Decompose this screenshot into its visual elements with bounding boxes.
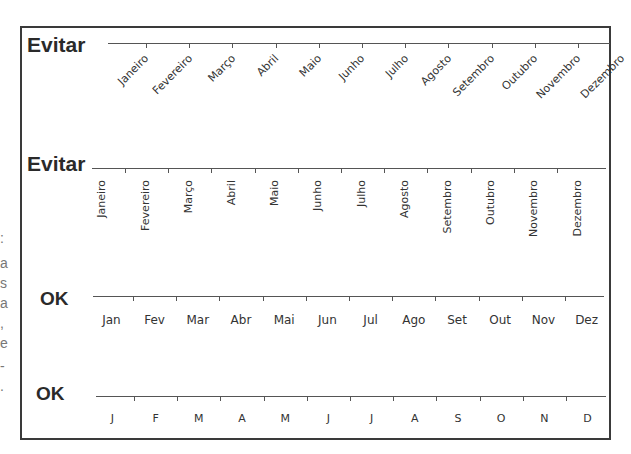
axis-tick: [177, 396, 178, 401]
month-label: J: [327, 412, 330, 425]
axis-tick: [319, 43, 320, 48]
diagram-frame: [20, 26, 611, 440]
month-label: Março: [182, 180, 195, 213]
month-label: Janeiro: [95, 180, 108, 218]
month-label: N: [540, 412, 548, 425]
axis-tick: [264, 396, 265, 401]
axis-tick: [220, 396, 221, 401]
axis-tick: [384, 168, 385, 173]
edge-text-fragment: :: [0, 230, 4, 246]
month-label: Maio: [268, 180, 281, 206]
row-label-avoid-vertical: Evitar: [27, 152, 85, 176]
month-label: Jul: [363, 313, 377, 327]
month-label: Fevereiro: [139, 180, 152, 231]
axis-tick: [232, 43, 233, 48]
edge-text-fragment: a: [0, 255, 8, 271]
axis-tick: [392, 296, 393, 301]
axis-tick: [306, 296, 307, 301]
axis-tick: [480, 396, 481, 401]
axis-tick: [255, 168, 256, 173]
axis-tick: [263, 296, 264, 301]
axis-tick: [362, 43, 363, 48]
axis-tick: [471, 168, 472, 173]
month-label: J: [111, 412, 114, 425]
month-label: Out: [489, 313, 511, 327]
month-label: A: [238, 412, 246, 425]
edge-text-fragment: ,: [0, 315, 4, 331]
month-label: Ago: [402, 313, 425, 327]
axis-tick: [125, 168, 126, 173]
month-label: Fev: [144, 313, 165, 327]
edge-text-fragment: a: [0, 295, 8, 311]
month-label: A: [411, 412, 419, 425]
axis-tick: [492, 43, 493, 48]
month-label: D: [583, 412, 591, 425]
month-label: O: [497, 412, 506, 425]
axis-line: [96, 396, 606, 397]
axis-tick: [393, 396, 394, 401]
axis-tick: [427, 168, 428, 173]
month-label: M: [194, 412, 204, 425]
month-label: Mai: [274, 313, 295, 327]
month-label: J: [370, 412, 373, 425]
axis-tick: [189, 43, 190, 48]
axis-tick: [298, 168, 299, 173]
month-label: Dez: [575, 313, 598, 327]
axis-tick: [307, 396, 308, 401]
month-label: Abril: [225, 180, 238, 205]
axis-tick: [522, 296, 523, 301]
axis-tick: [349, 296, 350, 301]
axis-tick: [276, 43, 277, 48]
month-label: Julho: [355, 180, 368, 207]
month-label: Nov: [532, 313, 555, 327]
month-label: Junho: [311, 180, 324, 211]
axis-tick: [133, 296, 134, 301]
month-label: Jan: [102, 313, 121, 327]
edge-text-fragment: -: [0, 358, 5, 374]
month-label: M: [280, 412, 290, 425]
axis-tick: [436, 396, 437, 401]
row-label-ok-letters: OK: [36, 383, 65, 405]
month-label: Abr: [231, 313, 252, 327]
month-label: Agosto: [398, 180, 411, 218]
month-label: Dezembro: [571, 180, 584, 237]
axis-line: [92, 168, 606, 169]
row-label-ok-abbreviated: OK: [40, 288, 69, 310]
axis-tick: [219, 296, 220, 301]
axis-tick: [578, 43, 579, 48]
month-label: Outubro: [484, 180, 497, 225]
axis-tick: [479, 296, 480, 301]
axis-tick: [514, 168, 515, 173]
axis-tick: [134, 396, 135, 401]
edge-text-fragment: .: [0, 378, 4, 394]
axis-tick: [565, 296, 566, 301]
month-label: Setembro: [441, 180, 454, 234]
row-label-avoid-rotated: Evitar: [27, 33, 85, 57]
month-label: F: [152, 412, 158, 425]
axis-tick: [566, 396, 567, 401]
axis-tick: [405, 43, 406, 48]
month-label: S: [455, 412, 462, 425]
axis-tick: [168, 168, 169, 173]
month-label: Jun: [318, 313, 337, 327]
month-label: Novembro: [527, 180, 540, 237]
axis-tick: [523, 396, 524, 401]
axis-tick: [341, 168, 342, 173]
axis-tick: [176, 296, 177, 301]
axis-tick: [435, 296, 436, 301]
axis-tick: [350, 396, 351, 401]
edge-text-fragment: s: [0, 275, 7, 291]
month-label: Mar: [186, 313, 209, 327]
axis-tick: [448, 43, 449, 48]
month-label: Set: [447, 313, 467, 327]
axis-tick: [535, 43, 536, 48]
edge-text-fragment: e: [0, 335, 8, 351]
axis-tick: [211, 168, 212, 173]
axis-tick: [557, 168, 558, 173]
axis-tick: [146, 43, 147, 48]
